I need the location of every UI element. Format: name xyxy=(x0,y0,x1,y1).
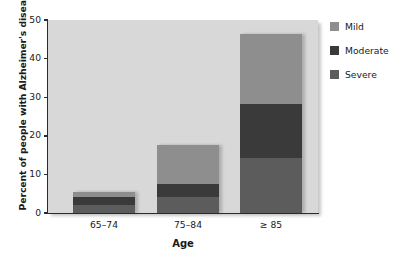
legend-item-severe: Severe xyxy=(330,62,389,86)
bar-2 xyxy=(157,145,219,213)
y-tick-label: 30 xyxy=(29,91,41,102)
bar-segment-mild xyxy=(157,145,219,184)
x-tick-label: 75–84 xyxy=(143,219,233,230)
bar-segment-moderate xyxy=(240,104,302,158)
y-tick-mark xyxy=(44,97,48,98)
y-tick-label: 20 xyxy=(29,129,41,140)
y-tick-label: 10 xyxy=(29,168,41,179)
bars-layer xyxy=(48,20,318,213)
legend-label-mild: Mild xyxy=(345,21,364,32)
bar-segment-moderate xyxy=(157,184,219,197)
bar-1 xyxy=(73,192,135,213)
y-tick-mark xyxy=(44,212,48,213)
y-tick-mark xyxy=(44,58,48,59)
legend-item-moderate: Moderate xyxy=(330,38,389,62)
x-tick-label: 65–74 xyxy=(59,219,149,230)
bar-segment-mild xyxy=(240,34,302,104)
y-tick-label: 50 xyxy=(29,14,41,25)
plot-area xyxy=(48,20,318,213)
bar-3 xyxy=(240,34,302,213)
legend-swatch-mild xyxy=(330,22,339,31)
y-axis-line xyxy=(47,20,48,213)
y-tick-mark xyxy=(44,135,48,136)
bar-segment-severe xyxy=(157,197,219,213)
y-tick-mark xyxy=(44,174,48,175)
legend-swatch-severe xyxy=(330,70,339,79)
stacked-bar-chart: Percent of people with Alzheimer's disea… xyxy=(0,0,407,263)
y-tick-label: 40 xyxy=(29,52,41,63)
legend-item-mild: Mild xyxy=(330,14,389,38)
bar-segment-severe xyxy=(240,158,302,213)
y-tick-label: 0 xyxy=(35,207,41,218)
x-axis-line xyxy=(47,213,319,214)
y-tick-mark xyxy=(44,19,48,20)
y-axis-title: Percent of people with Alzheimer's disea… xyxy=(17,11,28,211)
x-tick-label: ≥ 85 xyxy=(226,219,316,230)
chart-legend: MildModerateSevere xyxy=(330,14,389,86)
legend-label-severe: Severe xyxy=(345,69,377,80)
legend-swatch-moderate xyxy=(330,46,339,55)
x-axis-title: Age xyxy=(48,238,318,249)
bar-segment-moderate xyxy=(73,197,135,205)
legend-label-moderate: Moderate xyxy=(345,45,389,56)
